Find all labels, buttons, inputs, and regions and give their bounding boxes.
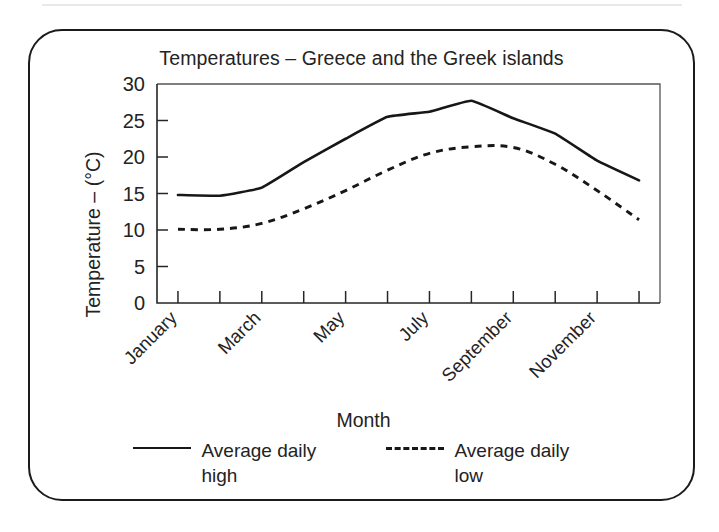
legend-item-low: Average daily low — [386, 438, 595, 488]
y-tick-label: 20 — [123, 146, 145, 168]
x-tick-label: January — [119, 306, 181, 368]
plot-container: 051015202530JanuaryMarchMayJulySeptember… — [30, 31, 697, 503]
y-tick-label: 10 — [123, 219, 145, 241]
series-line-low — [178, 146, 639, 230]
y-tick-label: 30 — [123, 73, 145, 95]
y-tick-label: 0 — [134, 292, 145, 314]
line-chart: 051015202530JanuaryMarchMayJulySeptember… — [30, 31, 697, 503]
series-line-high — [178, 101, 639, 196]
x-tick-label: May — [309, 306, 349, 346]
chart-legend: Average daily high Average daily low — [30, 438, 697, 488]
y-tick-label: 25 — [123, 110, 145, 132]
x-tick-label: September — [437, 307, 516, 386]
figure-card: Temperatures – Greece and the Greek isla… — [28, 29, 695, 501]
y-axis-title: Temperature – (°C) — [82, 125, 105, 345]
legend-line-dashed-icon — [386, 438, 444, 458]
legend-item-high: Average daily high — [133, 438, 342, 488]
x-tick-label: July — [394, 306, 433, 345]
legend-line-solid-icon — [133, 438, 191, 458]
legend-label-high: Average daily high — [202, 438, 342, 488]
legend-label-low: Average daily low — [455, 438, 595, 488]
scan-artifact-line — [42, 4, 682, 6]
x-axis-title: Month — [30, 409, 697, 432]
x-tick-label: November — [525, 307, 600, 382]
x-tick-label: March — [213, 307, 264, 358]
y-tick-label: 5 — [134, 256, 145, 278]
y-tick-label: 15 — [123, 183, 145, 205]
